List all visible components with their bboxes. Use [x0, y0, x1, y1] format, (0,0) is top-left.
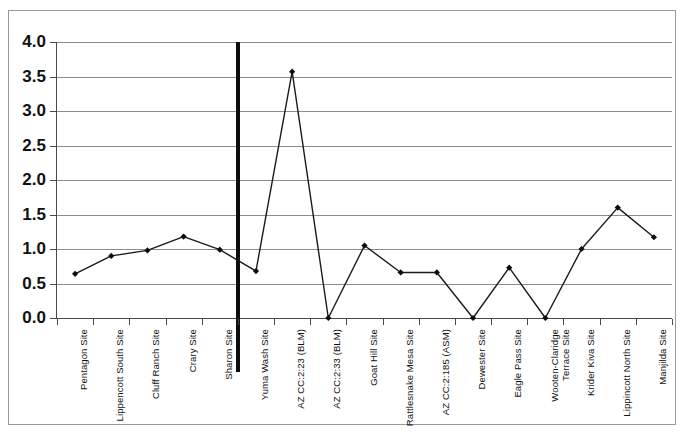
x-label-wooten-claridge-terrace-site: Wooten-Claridge Terrace Site [550, 329, 571, 402]
x-label-rattlesnake-mesa-site: Rattlesnake Mesa Site [405, 329, 416, 426]
x-tick-mark [491, 319, 492, 325]
x-tick-mark [563, 319, 564, 325]
x-tick-mark [600, 319, 601, 325]
gridline-1.0 [57, 249, 672, 250]
x-tick-mark [455, 319, 456, 325]
y-tick-label-3.0: 3.0 [22, 102, 46, 119]
y-tick-mark-1.5 [50, 215, 57, 216]
x-tick-mark [310, 319, 311, 325]
y-tick-label-4.0: 4.0 [22, 33, 46, 50]
x-tick-mark [636, 319, 637, 325]
y-tick-label-1.5: 1.5 [22, 206, 46, 223]
gridline-4.0 [57, 42, 672, 43]
y-tick-label-0.0: 0.0 [22, 309, 46, 326]
y-tick-mark-4.0 [50, 42, 57, 43]
x-label-sharon-site: Sharon Site [224, 329, 235, 380]
y-tick-label-2.0: 2.0 [22, 171, 46, 188]
y-tick-label-0.5: 0.5 [22, 275, 46, 292]
x-tick-mark [346, 319, 347, 325]
y-tick-label-2.5: 2.5 [22, 137, 46, 154]
y-tick-mark-2.5 [50, 146, 57, 147]
y-tick-label-3.5: 3.5 [22, 68, 46, 85]
x-tick-mark [527, 319, 528, 325]
x-label-az-cc-2-23-blm: AZ CC:2:23 (BLM) [296, 329, 307, 409]
x-tick-mark [93, 319, 94, 325]
x-tick-mark [166, 319, 167, 325]
x-tick-mark [202, 319, 203, 325]
x-tick-mark [274, 319, 275, 325]
x-label-krider-kiva-site: Krider Kiva Site [586, 329, 597, 396]
chart-figure: 4.03.53.02.52.01.51.00.50.0 Pentagon Sit… [0, 0, 686, 445]
x-tick-mark [383, 319, 384, 325]
x-label-lippencott-south-site: Lippencott South Site [115, 329, 126, 421]
x-label-az-cc-2-33-blm: AZ CC:2:33 (BLM) [332, 329, 343, 409]
gridline-1.5 [57, 215, 672, 216]
x-label-crary-site: Crary Site [188, 329, 199, 372]
x-label-cluff-ranch-site: Cluff Ranch Site [151, 329, 162, 399]
x-tick-mark [238, 319, 239, 325]
x-label-lippincott-north-site: Lippincott North Site [622, 329, 633, 417]
y-tick-mark-0.0 [50, 318, 57, 319]
x-label-manjilda-site: Manjilda Site [658, 329, 669, 385]
x-tick-mark [672, 319, 673, 325]
y-tick-mark-1.0 [50, 249, 57, 250]
y-tick-mark-0.5 [50, 284, 57, 285]
x-label-yuma-wash-site: Yuma Wash Site [260, 329, 271, 400]
x-label-goat-hill-site: Goat Hill Site [369, 329, 380, 386]
gridline-2.5 [57, 146, 672, 147]
y-axis-tick-labels: 4.03.53.02.52.01.51.00.50.0 [0, 0, 46, 445]
plot-area [57, 42, 672, 318]
x-label-pentagon-site: Pentagon Site [79, 329, 90, 390]
gridline-2.0 [57, 180, 672, 181]
x-tick-mark [419, 319, 420, 325]
x-label-dewester-site: Dewester Site [477, 329, 488, 389]
gridline-0.5 [57, 284, 672, 285]
x-tick-mark [57, 319, 58, 325]
y-tick-mark-3.0 [50, 111, 57, 112]
x-label-eagle-pass-site: Eagle Pass Site [513, 329, 524, 398]
x-axis-line [56, 318, 672, 319]
y-tick-label-1.0: 1.0 [22, 240, 46, 257]
y-tick-mark-2.0 [50, 180, 57, 181]
gridline-3.5 [57, 77, 672, 78]
x-tick-mark [129, 319, 130, 325]
y-tick-mark-3.5 [50, 77, 57, 78]
x-label-az-cc-2-185-asm: AZ CC:2:185 (ASM) [441, 329, 452, 415]
gridline-3.0 [57, 111, 672, 112]
